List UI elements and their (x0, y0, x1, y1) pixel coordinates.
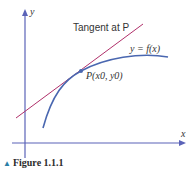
tangent-diagram: y x Tangent at P y = f(x) P(x0, y0) (0, 0, 191, 174)
curve (43, 55, 168, 128)
y-axis (22, 9, 28, 158)
figure-caption: ▲Figure 1.1.1 (3, 157, 64, 168)
y-axis-label: y (29, 6, 35, 17)
tangent-label: Tangent at P (73, 22, 129, 33)
x-axis (12, 140, 186, 146)
curve-label: y = f(x) (129, 43, 161, 55)
x-axis-label: x (180, 128, 186, 139)
caption-marker-icon: ▲ (3, 159, 11, 168)
caption-text: Figure 1.1.1 (13, 157, 64, 168)
point-p (79, 69, 83, 73)
point-label: P(x0, y0) (85, 70, 123, 82)
